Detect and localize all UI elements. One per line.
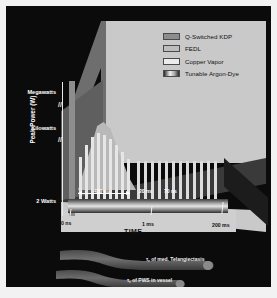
vessel-label-text: of PWS in vessel xyxy=(131,277,172,283)
series-band-tunable-argon-dye xyxy=(68,199,228,213)
pulse-spike xyxy=(158,161,161,199)
x-tick-1ms: 1 ms xyxy=(142,221,154,227)
y-tick-2-watts: 2 Watts xyxy=(12,198,56,204)
legend-swatch-icon xyxy=(163,45,180,52)
legend-swatch-icon xyxy=(163,58,180,65)
legend: Q-Switched KDP FEDL Copper Vapor Tunable… xyxy=(163,30,239,80)
x-axis-title: TIME xyxy=(124,228,142,235)
pulse-spike xyxy=(207,161,210,199)
legend-label: Copper Vapor xyxy=(185,58,224,65)
pulse-spike xyxy=(200,161,203,199)
legend-item-tunable-argon-dye: Tunable Argon-Dye xyxy=(163,68,239,81)
legend-label: FEDL xyxy=(185,45,201,52)
legend-item-copper-vapor: Copper Vapor xyxy=(163,55,239,68)
vessel-label-text: of med. Telangiectasis xyxy=(150,256,205,262)
pulse-spike xyxy=(179,161,182,199)
legend-item-fedl: FEDL xyxy=(163,43,239,56)
pulse-spike xyxy=(85,145,88,199)
y-tick-kilowatts: Kilowatts xyxy=(12,125,56,131)
pulse-spike xyxy=(121,152,124,199)
pulse-spike xyxy=(193,161,196,199)
pulse-spike xyxy=(115,145,118,199)
x-tick-200ms: 200 ms xyxy=(212,222,230,228)
annotation-pulse-70ns: 70 ns xyxy=(164,188,177,194)
x-tick-10ns: 10 ns xyxy=(58,220,71,226)
legend-item-q-switched-kdp: Q-Switched KDP xyxy=(163,30,239,43)
pulse-spike xyxy=(186,161,189,199)
legend-swatch-icon xyxy=(163,33,180,40)
legend-label: Tunable Argon-Dye xyxy=(185,70,239,77)
annotation-pulse-20ns: 20 ns xyxy=(139,188,152,194)
legend-label: Q-Switched KDP xyxy=(185,33,232,40)
figure-root: Q-Switched KDP FEDL Copper Vapor Tunable… xyxy=(0,0,277,298)
y-tick-megawatts: Megawatts xyxy=(12,89,56,95)
annotation-fedl-width: 450 µs xyxy=(94,188,109,194)
figure-plate: Q-Switched KDP FEDL Copper Vapor Tunable… xyxy=(6,6,271,287)
vessel-label-pws: τr of PWS in vessel xyxy=(127,277,172,284)
pulse-spike xyxy=(214,161,217,199)
y-axis-line xyxy=(62,82,63,216)
legend-swatch-icon xyxy=(163,70,180,77)
vessel-label-telangiectasis: τr of med. Telangiectasis xyxy=(146,256,204,263)
series-bar-q-switched-kdp xyxy=(69,81,75,216)
